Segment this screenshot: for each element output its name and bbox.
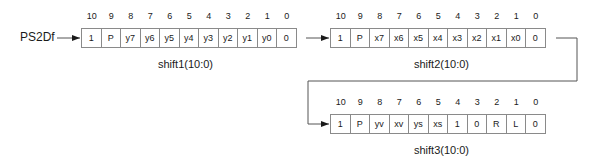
bit-cell: R: [486, 114, 507, 134]
bit-index: 2: [238, 11, 258, 21]
bit-cell: x3: [447, 28, 468, 48]
bit-cell: xv: [389, 114, 410, 134]
bit-cell: y1: [237, 28, 258, 48]
bit-cell: x0: [506, 28, 527, 48]
bit-cell: P: [350, 28, 371, 48]
shift1-bit-index-row: 10 9 8 7 6 5 4 3 2 1 0: [82, 11, 297, 21]
bit-cell: y6: [140, 28, 161, 48]
bit-index: 10: [331, 11, 351, 21]
bit-cell: y3: [198, 28, 219, 48]
bit-cell: x4: [428, 28, 449, 48]
bit-cell: y5: [159, 28, 180, 48]
bit-cell: L: [506, 114, 527, 134]
bit-index: 10: [331, 97, 351, 107]
bit-index: 0: [277, 11, 297, 21]
bit-cell: yv: [369, 114, 390, 134]
bit-index: 4: [448, 97, 468, 107]
bit-cell: y2: [218, 28, 239, 48]
bit-cell: 1: [81, 28, 102, 48]
bit-index: 3: [468, 11, 488, 21]
bit-index: 5: [429, 11, 449, 21]
shift2-to-shift3-arrow: [308, 38, 577, 124]
bit-index: 6: [160, 11, 180, 21]
bit-index: 2: [487, 97, 507, 107]
shift3-bit-index-row: 10 9 8 7 6 5 4 3 2 1 0: [331, 97, 546, 107]
bit-index: 9: [351, 97, 371, 107]
bit-index: 7: [390, 97, 410, 107]
input-signal-label: PS2Df: [20, 30, 55, 44]
bit-index: 6: [409, 11, 429, 21]
shift1-label: shift1(10:0): [158, 58, 213, 70]
shift2-bit-index-row: 10 9 8 7 6 5 4 3 2 1 0: [331, 11, 546, 21]
bit-cell: x1: [486, 28, 507, 48]
bit-cell: x2: [467, 28, 488, 48]
bit-cell: P: [101, 28, 122, 48]
bit-cell: 1: [447, 114, 468, 134]
bit-cell: y7: [120, 28, 141, 48]
bit-index: 9: [102, 11, 122, 21]
bit-cell: 0: [525, 28, 546, 48]
bit-cell: 0: [525, 114, 546, 134]
shift3-register: 1 P yv xv ys xs 1 0 R L 0: [330, 114, 546, 134]
bit-cell: 0: [467, 114, 488, 134]
bit-index: 7: [390, 11, 410, 21]
bit-cell: y0: [257, 28, 278, 48]
bit-cell: 1: [330, 114, 351, 134]
bit-index: 8: [370, 11, 390, 21]
bit-index: 4: [199, 11, 219, 21]
bit-index: 3: [219, 11, 239, 21]
bit-cell: x5: [408, 28, 429, 48]
bit-index: 1: [258, 11, 278, 21]
bit-cell: xs: [428, 114, 449, 134]
bit-cell: 0: [276, 28, 297, 48]
bit-index: 0: [526, 97, 546, 107]
shift2-label: shift2(10:0): [414, 58, 469, 70]
bit-cell: x6: [389, 28, 410, 48]
bit-index: 9: [351, 11, 371, 21]
bit-index: 1: [507, 11, 527, 21]
shift1-register: 1 P y7 y6 y5 y4 y3 y2 y1 y0 0: [81, 28, 297, 48]
shift3-label: shift3(10:0): [414, 144, 469, 156]
bit-cell: y4: [179, 28, 200, 48]
bit-index: 8: [121, 11, 141, 21]
bit-index: 2: [487, 11, 507, 21]
bit-index: 0: [526, 11, 546, 21]
bit-cell: P: [350, 114, 371, 134]
bit-index: 5: [429, 97, 449, 107]
bit-cell: 1: [330, 28, 351, 48]
bit-index: 8: [370, 97, 390, 107]
connector-wires: [0, 0, 599, 163]
bit-index: 7: [141, 11, 161, 21]
bit-index: 10: [82, 11, 102, 21]
bit-cell: ys: [408, 114, 429, 134]
bit-index: 3: [468, 97, 488, 107]
shift2-register: 1 P x7 x6 x5 x4 x3 x2 x1 x0 0: [330, 28, 546, 48]
bit-index: 6: [409, 97, 429, 107]
bit-index: 1: [507, 97, 527, 107]
bit-index: 4: [448, 11, 468, 21]
bit-index: 5: [180, 11, 200, 21]
bit-cell: x7: [369, 28, 390, 48]
